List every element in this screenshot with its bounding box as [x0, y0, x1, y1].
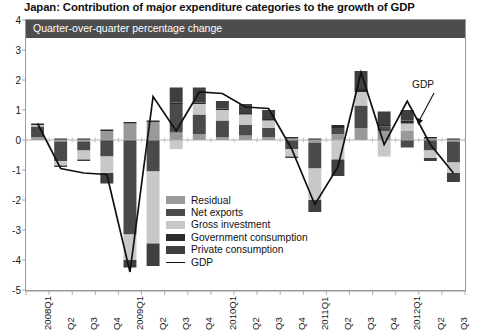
- bar-segment: [239, 115, 252, 126]
- annotation-arrow-shaft: [418, 93, 434, 123]
- bar-segment: [355, 128, 368, 140]
- bar-segment: [170, 104, 183, 133]
- bar-segment: [147, 140, 160, 172]
- y-axis-tick-label: 1: [1, 105, 21, 116]
- y-axis-tick-label: -2: [1, 195, 21, 206]
- legend-color-swatch: [166, 246, 185, 254]
- legend-item-label: GDP: [191, 257, 213, 268]
- y-axis-tick-label: -4: [1, 255, 21, 266]
- chart-canvas: [0, 0, 487, 334]
- legend-item[interactable]: GDP: [166, 256, 308, 268]
- y-axis-tick-label: 3: [1, 45, 21, 56]
- bar-segment: [239, 113, 252, 115]
- bar-segment: [401, 131, 414, 140]
- bar-segment: [170, 103, 183, 105]
- x-axis-tick-label: Q2: [157, 317, 168, 330]
- y-axis-tick-label: 2: [1, 75, 21, 86]
- bar-segment: [331, 134, 344, 140]
- x-axis-tick-label: Q2: [435, 317, 446, 330]
- x-axis-tick-label: Q2: [342, 317, 353, 330]
- gdp-annotation-arrow: [417, 93, 435, 125]
- x-axis-tick-label: Q3: [88, 317, 99, 330]
- x-axis-tick-label: Q4: [388, 317, 399, 330]
- x-axis-tick-label: Q3: [365, 317, 376, 330]
- x-axis-tick-label: Q4: [203, 317, 214, 330]
- y-axis-tick-label: -5: [1, 285, 21, 296]
- legend-item-label: Residual: [191, 195, 231, 206]
- legend-item-label: Government consumption: [191, 232, 308, 243]
- bar-segment: [77, 151, 90, 160]
- bar-segment: [262, 128, 275, 137]
- x-axis-tick-label: Q4: [296, 317, 307, 330]
- x-axis-tick-label: 2009Q1: [134, 296, 145, 330]
- x-axis-tick-label: Q4: [111, 317, 122, 330]
- bar-segment: [285, 137, 298, 139]
- bar-segment: [216, 101, 229, 109]
- bar-segment: [100, 130, 113, 132]
- legend-item[interactable]: Gross investment: [166, 219, 308, 231]
- bar-segment: [216, 110, 229, 121]
- bar-segment: [331, 128, 344, 134]
- legend-item-label: Private consumption: [191, 244, 283, 255]
- bar-segment: [100, 157, 113, 174]
- bar-segment: [401, 121, 414, 124]
- bar-segment: [378, 125, 391, 127]
- bar-segment: [401, 124, 414, 132]
- chart-figure: Japan: Contribution of major expenditure…: [0, 0, 487, 334]
- bar-segment: [193, 103, 206, 105]
- bar-segment: [424, 151, 437, 159]
- bar-segment: [193, 104, 206, 115]
- y-axis-tick-label: 4: [1, 15, 21, 26]
- legend-item-label: Gross investment: [191, 219, 270, 230]
- x-axis-tick-label: Q3: [458, 317, 469, 330]
- bar-segment: [170, 133, 183, 141]
- bar-segment: [100, 131, 113, 140]
- legend-item[interactable]: Private consumption: [166, 244, 308, 256]
- bar-segment: [262, 119, 275, 121]
- bar-segment: [193, 115, 206, 135]
- x-axis-tick-label: 2011Q1: [319, 297, 330, 330]
- bar-segment: [239, 136, 252, 141]
- bar-segment: [216, 121, 229, 138]
- bar-segment: [124, 122, 137, 124]
- bar-segment: [424, 158, 437, 161]
- bar-segment: [308, 143, 321, 169]
- bar-segment: [147, 172, 160, 244]
- legend-item-label: Net exports: [191, 207, 243, 218]
- x-axis-tick-label: Q2: [250, 317, 261, 330]
- bar-segment: [124, 140, 137, 235]
- x-axis-tick-label: 2008Q1: [42, 296, 53, 330]
- legend-item[interactable]: Net exports: [166, 206, 308, 218]
- bar-segment: [401, 110, 414, 121]
- bar-segment: [355, 106, 368, 129]
- bar-segment: [193, 134, 206, 140]
- legend-color-swatch: [166, 209, 185, 217]
- bar-segment: [447, 142, 460, 163]
- bar-segment: [239, 125, 252, 136]
- bar-segment: [239, 104, 252, 113]
- y-axis-tick-label: -3: [1, 225, 21, 236]
- x-axis-tick-label: 2012Q1: [411, 296, 422, 330]
- legend-line-swatch: [166, 262, 185, 263]
- y-axis-tick-label: 0: [1, 135, 21, 146]
- bar-segment: [54, 161, 67, 166]
- bar-segment: [147, 121, 160, 123]
- legend-color-swatch: [166, 221, 185, 229]
- bar-segment: [170, 88, 183, 103]
- bar-segment: [170, 140, 183, 149]
- chart-legend: ResidualNet exportsGross investmentGover…: [166, 194, 308, 268]
- gdp-annotation-label: GDP: [412, 79, 434, 90]
- x-axis-tick-label: Q3: [273, 317, 284, 330]
- legend-color-swatch: [166, 234, 185, 242]
- legend-item[interactable]: Residual: [166, 194, 308, 206]
- y-axis-tick-label: -1: [1, 165, 21, 176]
- bar-segment: [331, 125, 344, 128]
- bar-segment: [77, 160, 90, 162]
- bar-segment: [124, 124, 137, 141]
- legend-item[interactable]: Government consumption: [166, 231, 308, 243]
- x-axis-tick-label: Q2: [65, 317, 76, 330]
- bar-segment: [100, 140, 113, 157]
- bar-segment: [216, 109, 229, 111]
- x-axis-tick-label: 2010Q1: [227, 296, 238, 330]
- bar-segment: [401, 140, 414, 148]
